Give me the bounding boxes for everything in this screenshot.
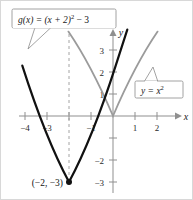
y-tick-label-2: 2 [100, 68, 105, 78]
vertex-point-label: (−2, −3) [32, 178, 63, 189]
x-tick-label-1: 1 [133, 123, 138, 133]
g-callout-label: g(x) = (x + 2)2 − 3 [18, 13, 89, 26]
y-callout-expr-main: y = x [140, 86, 161, 96]
y-tick-label-3: 3 [100, 46, 105, 56]
x-axis-label: x [183, 111, 189, 122]
x-tick-label--4: −4 [20, 123, 30, 133]
x-tick-label-2: 2 [155, 123, 160, 133]
graph-canvas: −4 −3 −1 1 2 3 2 1 −2 −3 x y (−2, −3) g(… [1, 1, 193, 200]
y-tick-label--2: −2 [94, 156, 104, 166]
y-axis-label: y [118, 27, 124, 38]
g-callout-expr-main: g(x) = (x + 2) [18, 15, 71, 26]
y-callout-label: y = x2 [140, 84, 164, 96]
g-callout-tail [28, 28, 51, 50]
y-function-callout: y = x2 [135, 67, 183, 98]
g-callout-expr-tail: − 3 [74, 15, 89, 25]
g-function-callout: g(x) = (x + 2)2 − 3 [12, 9, 116, 49]
y-callout-tail [144, 67, 158, 82]
x-axis-arrowhead [175, 113, 182, 120]
vertex-point-marker [66, 179, 72, 185]
y-axis-arrowhead [110, 29, 117, 36]
y-callout-exponent: 2 [161, 84, 164, 91]
black-parabola-curve [22, 30, 127, 182]
y-tick-label--3: −3 [94, 178, 104, 188]
parabola-figure: −4 −3 −1 1 2 3 2 1 −2 −3 x y (−2, −3) g(… [0, 0, 193, 200]
